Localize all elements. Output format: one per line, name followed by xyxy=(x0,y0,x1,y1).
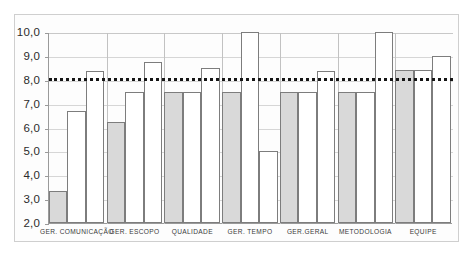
bar xyxy=(144,62,162,223)
y-tick-label: 6,0 xyxy=(0,123,40,135)
x-axis-category-label: METODOLOGIA xyxy=(339,226,392,238)
y-tick-label: 5,0 xyxy=(0,146,40,158)
y-tick-label: 10,0 xyxy=(0,27,40,39)
bar xyxy=(107,122,125,223)
y-tick-mark xyxy=(45,224,49,225)
y-tick-label: 9,0 xyxy=(0,51,40,63)
bar xyxy=(280,92,298,223)
y-tick-mark xyxy=(45,105,49,106)
y-tick-label: 7,0 xyxy=(0,99,40,111)
bar xyxy=(241,32,259,223)
bar xyxy=(395,70,413,223)
x-axis-category-label: GER.GERAL xyxy=(287,226,329,238)
bar-chart: 10,09,08,07,06,05,04,03,02,0 GER. COMUNI… xyxy=(0,0,473,261)
bar xyxy=(317,71,335,223)
bar xyxy=(49,191,67,223)
bar xyxy=(201,68,219,223)
y-tick-mark xyxy=(45,33,49,34)
y-tick-mark xyxy=(45,57,49,58)
bar xyxy=(86,71,104,223)
y-tick-label: 3,0 xyxy=(0,194,40,206)
y-tick-label: 4,0 xyxy=(0,170,40,182)
bar xyxy=(338,92,356,223)
x-axis-category-label: EQUIPE xyxy=(410,226,437,238)
x-axis-category-labels: GER. COMUNICAÇÃOGER. ESCOPOQUALIDADEGER.… xyxy=(48,226,452,242)
bar xyxy=(259,151,277,223)
x-axis-category-label: GER. ESCOPO xyxy=(110,226,160,238)
bar xyxy=(298,92,316,223)
y-tick-label: 8,0 xyxy=(0,75,40,87)
y-tick-mark xyxy=(45,129,49,130)
y-tick-mark xyxy=(45,152,49,153)
bar xyxy=(375,32,393,223)
bar xyxy=(222,92,240,223)
bar xyxy=(414,70,432,223)
reference-line xyxy=(49,78,453,81)
bar xyxy=(164,92,182,223)
x-axis-category-label: GER. TEMPO xyxy=(228,226,273,238)
plot-area xyxy=(48,33,452,224)
x-axis-category-label: GER. COMUNICAÇÃO xyxy=(40,226,114,238)
bar xyxy=(356,92,374,223)
x-axis-category-label: QUALIDADE xyxy=(172,226,213,238)
bar xyxy=(125,92,143,223)
bar xyxy=(67,111,85,223)
y-tick-label: 2,0 xyxy=(0,218,40,230)
y-tick-mark xyxy=(45,176,49,177)
bar xyxy=(183,92,201,223)
